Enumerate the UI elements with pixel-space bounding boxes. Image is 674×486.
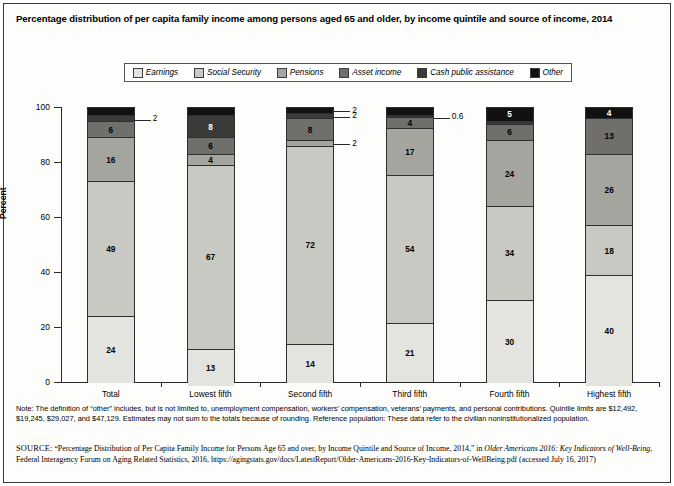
- bar-segment-value: 17: [405, 148, 414, 156]
- legend-label: Social Security: [207, 68, 261, 77]
- chart-source: SOURCE: “Percentage Distribution of Per …: [16, 444, 660, 465]
- source-italic-title: Older Americans 2016: Key Indicators of …: [484, 444, 650, 453]
- legend-item: Other: [530, 68, 563, 78]
- legend-item: Earnings: [133, 68, 178, 78]
- stacked-bar[interactable]: 56243430: [486, 107, 534, 382]
- bar-segment[interactable]: 13: [586, 119, 632, 155]
- legend-label: Earnings: [146, 68, 178, 77]
- bar-segment[interactable]: 16: [88, 138, 134, 182]
- figure-container: Percentage distribution of per capita fa…: [3, 3, 671, 483]
- x-axis-category-label: Second fifth: [255, 389, 365, 399]
- source-prefix: SOURCE:: [16, 444, 52, 453]
- bar-segment-value: 6: [507, 128, 512, 136]
- bar-segment[interactable]: [387, 108, 433, 116]
- stacked-bar[interactable]: 413261840: [585, 107, 633, 382]
- bar-segment[interactable]: 40: [586, 276, 632, 386]
- bar-segment[interactable]: 14: [287, 345, 333, 384]
- bar-segment-value: 30: [505, 338, 514, 346]
- bar-segment[interactable]: 4: [188, 155, 234, 166]
- bar-segment-value: 13: [206, 364, 215, 372]
- bar-segment[interactable]: 5: [487, 108, 533, 122]
- bar-segment-value: 13: [605, 132, 614, 140]
- bar-segment[interactable]: 24: [88, 317, 134, 383]
- bar-segment-value: 24: [106, 346, 115, 354]
- legend-item: Social Security: [194, 68, 261, 78]
- legend-swatch-icon: [339, 68, 349, 78]
- y-axis-tick-label: 60: [4, 213, 50, 221]
- stacked-bar[interactable]: 6164924: [87, 107, 135, 382]
- y-axis-tick: [54, 217, 61, 218]
- x-axis-tick: [460, 382, 461, 387]
- bar-segment-value: 4: [208, 156, 213, 164]
- y-axis-tick: [54, 272, 61, 273]
- bar-segment-value: 24: [505, 170, 514, 178]
- bar-segment-value: 4: [408, 119, 413, 127]
- bar-segment-value: 18: [605, 247, 614, 255]
- bar-segment[interactable]: 67: [188, 166, 234, 350]
- bar-segment[interactable]: 8: [188, 116, 234, 138]
- bar-segment[interactable]: 18: [586, 226, 632, 276]
- legend-item: Asset income: [339, 68, 401, 78]
- plot-area: [61, 107, 658, 382]
- bar-segment-value: 21: [405, 349, 414, 357]
- legend-swatch-icon: [194, 68, 204, 78]
- x-axis-category-label: Third fifth: [355, 389, 465, 399]
- bar-segment[interactable]: 6: [188, 138, 234, 155]
- legend-label: Asset income: [352, 68, 401, 77]
- y-axis-tick-label: 40: [4, 268, 50, 276]
- bar-segment[interactable]: 4: [586, 108, 632, 119]
- bar-segment-value: 6: [208, 142, 213, 150]
- y-axis-tick-label: 20: [4, 323, 50, 331]
- bar-segment[interactable]: 4: [387, 118, 433, 129]
- bar-segment[interactable]: 13: [188, 350, 234, 386]
- bar-segment[interactable]: 8: [287, 119, 333, 141]
- bar-segment[interactable]: 30: [487, 301, 533, 384]
- bar-segment[interactable]: 17: [387, 129, 433, 176]
- legend-label: Other: [543, 68, 563, 77]
- bar-segment[interactable]: 24: [487, 141, 533, 207]
- bar-segment[interactable]: 49: [88, 182, 134, 317]
- stacked-bar[interactable]: 4175421: [386, 107, 434, 382]
- bar-segment[interactable]: 21: [387, 324, 433, 382]
- x-axis-category-label: Highest fifth: [554, 389, 664, 399]
- bar-segment[interactable]: 72: [287, 147, 333, 345]
- x-axis-tick: [559, 382, 560, 387]
- bar-segment-value: 4: [607, 109, 612, 117]
- bar-segment-value: 6: [109, 126, 114, 134]
- bar-segment-value: 26: [605, 186, 614, 194]
- stacked-bar[interactable]: 8646713: [187, 107, 235, 382]
- x-axis-category-label: Lowest fifth: [156, 389, 266, 399]
- bar-segment[interactable]: [188, 108, 234, 116]
- bar-segment-value: 8: [208, 123, 213, 131]
- legend-swatch-icon: [417, 68, 427, 78]
- bar-segment[interactable]: 6: [88, 122, 134, 139]
- stacked-bar[interactable]: 87214: [286, 107, 334, 382]
- bar-segment-value: 34: [505, 249, 514, 257]
- bar-segment-value: 72: [306, 241, 315, 249]
- source-line1: “Percentage Distribution of Per Capita F…: [52, 444, 484, 453]
- bar-segment[interactable]: 54: [387, 176, 433, 325]
- y-axis-tick: [54, 107, 61, 108]
- y-axis-tick: [54, 162, 61, 163]
- chart-legend: EarningsSocial SecurityPensionsAsset inc…: [124, 63, 572, 82]
- bar-segment[interactable]: 6: [487, 125, 533, 142]
- bar-segment-value: 49: [106, 245, 115, 253]
- y-axis-tick: [54, 382, 61, 383]
- bar-segment[interactable]: 26: [586, 155, 632, 227]
- legend-label: Pensions: [290, 68, 324, 77]
- x-axis-category-label: Total: [56, 389, 166, 399]
- chart-title: Percentage distribution of per capita fa…: [16, 13, 660, 25]
- y-axis-tick-label: 80: [4, 158, 50, 166]
- x-axis-tick: [161, 382, 162, 387]
- bar-segment-value: 40: [605, 327, 614, 335]
- bar-segment-value: 5: [507, 110, 512, 118]
- x-axis-tick: [260, 382, 261, 387]
- bar-segment[interactable]: 34: [487, 207, 533, 301]
- legend-item: Pensions: [277, 68, 324, 78]
- bar-segment[interactable]: [88, 108, 134, 116]
- y-axis-tick: [54, 327, 61, 328]
- legend-item: Cash public assistance: [417, 68, 514, 78]
- legend-swatch-icon: [133, 68, 143, 78]
- y-axis-tick-label: 100: [4, 103, 50, 111]
- legend-swatch-icon: [277, 68, 287, 78]
